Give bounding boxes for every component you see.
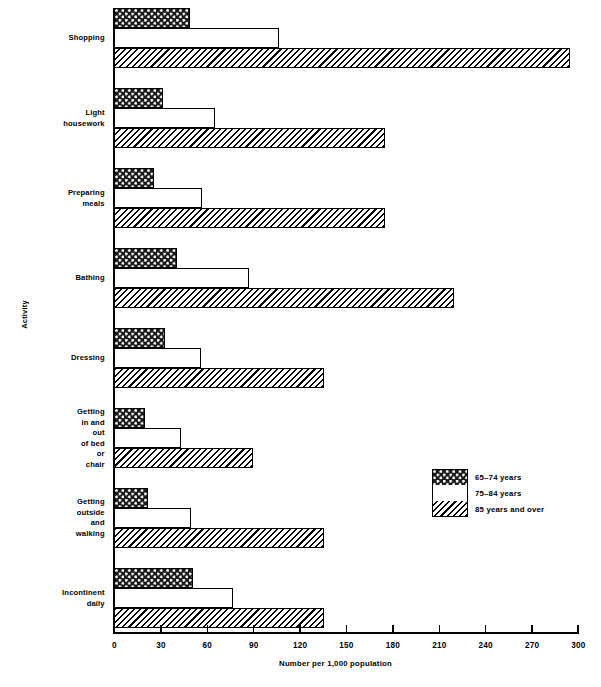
bar-65-74	[114, 8, 190, 28]
bar-65-74	[114, 568, 193, 588]
bar-65-74	[114, 328, 165, 348]
bar-65-74	[114, 408, 145, 428]
x-axis-tick	[253, 625, 254, 632]
x-axis-tick	[531, 625, 532, 632]
x-axis-tick-label: 240	[479, 641, 493, 650]
category-label: Incontinent daily	[62, 588, 112, 609]
x-axis-tick-label: 60	[203, 641, 213, 650]
x-axis-tick-label: 180	[386, 641, 400, 650]
bar-85-and-over	[114, 128, 385, 148]
bar-group-bathing: Bathing	[114, 248, 578, 308]
bar-85-and-over	[114, 368, 324, 388]
x-axis-tick	[392, 625, 393, 632]
bar-85-and-over	[114, 48, 570, 68]
legend-swatch-65-74-icon	[432, 469, 468, 485]
plot-area: Shopping Light housework Preparing meals…	[114, 8, 578, 632]
x-axis-title: Number per 1,000 population	[0, 659, 601, 668]
y-axis-title: Activity	[20, 275, 29, 355]
legend-swatch-75-84-icon	[432, 485, 468, 501]
x-axis-tick	[439, 625, 440, 632]
x-axis-tick	[299, 625, 300, 632]
category-label: Bathing	[75, 273, 111, 284]
bar-75-84	[114, 348, 201, 368]
x-axis-tick-label: 270	[525, 641, 539, 650]
bar-65-74	[114, 248, 177, 268]
legend-item-65-74: 65–74 years	[432, 469, 544, 485]
x-axis-tick-label: 30	[156, 641, 166, 650]
bar-75-84	[114, 268, 249, 288]
bar-group-incontinent-daily: Incontinent daily	[114, 568, 578, 628]
x-axis-tick-label: 150	[339, 641, 353, 650]
bar-75-84	[114, 428, 181, 448]
x-axis-line	[113, 632, 579, 634]
bar-group-dressing: Dressing	[114, 328, 578, 388]
bar-group-preparing-meals: Preparing meals	[114, 168, 578, 228]
x-axis-tick-label: 0	[112, 641, 117, 650]
category-label: Dressing	[71, 353, 112, 364]
bar-75-84	[114, 108, 215, 128]
x-axis-tick	[346, 625, 347, 632]
bar-85-and-over	[114, 448, 253, 468]
x-axis-tick-label: 90	[249, 641, 259, 650]
bar-85-and-over	[114, 288, 454, 308]
bar-75-84	[114, 28, 279, 48]
horizontal-bar-chart: Activity Shopping Light housework Prepar…	[0, 0, 601, 687]
bar-group-light-housework: Light housework	[114, 88, 578, 148]
bar-group-getting-in-out-of-bed: Getting in and out of bed or chair	[114, 408, 578, 468]
bar-65-74	[114, 488, 148, 508]
x-axis-tick-label: 120	[293, 641, 307, 650]
x-axis-tick-label: 300	[571, 641, 585, 650]
bar-85-and-over	[114, 608, 324, 628]
category-label: Getting outside and walking	[76, 497, 112, 539]
x-axis-tick-label: 210	[432, 641, 446, 650]
bar-75-84	[114, 188, 202, 208]
category-label: Getting in and out of bed or chair	[77, 407, 112, 470]
legend-label: 65–74 years	[468, 473, 521, 482]
category-label: Light housework	[63, 108, 111, 129]
legend-item-85-and-over: 85 years and over	[432, 501, 544, 517]
x-axis-tick	[114, 625, 115, 632]
category-label: Shopping	[68, 33, 111, 44]
legend-label: 85 years and over	[468, 505, 544, 514]
bar-85-and-over	[114, 208, 385, 228]
legend: 65–74 years 75–84 years 85 years and ove…	[432, 469, 544, 517]
bar-75-84	[114, 588, 233, 608]
bar-group-shopping: Shopping	[114, 8, 578, 68]
bar-65-74	[114, 88, 163, 108]
legend-label: 75–84 years	[468, 489, 521, 498]
category-label: Preparing meals	[68, 188, 112, 209]
bar-75-84	[114, 508, 191, 528]
x-axis-tick	[160, 625, 161, 632]
x-axis-tick	[207, 625, 208, 632]
legend-item-75-84: 75–84 years	[432, 485, 544, 501]
x-axis-tick	[578, 625, 579, 632]
bar-85-and-over	[114, 528, 324, 548]
bar-65-74	[114, 168, 154, 188]
x-axis-tick	[485, 625, 486, 632]
legend-swatch-85-and-over-icon	[432, 501, 468, 517]
